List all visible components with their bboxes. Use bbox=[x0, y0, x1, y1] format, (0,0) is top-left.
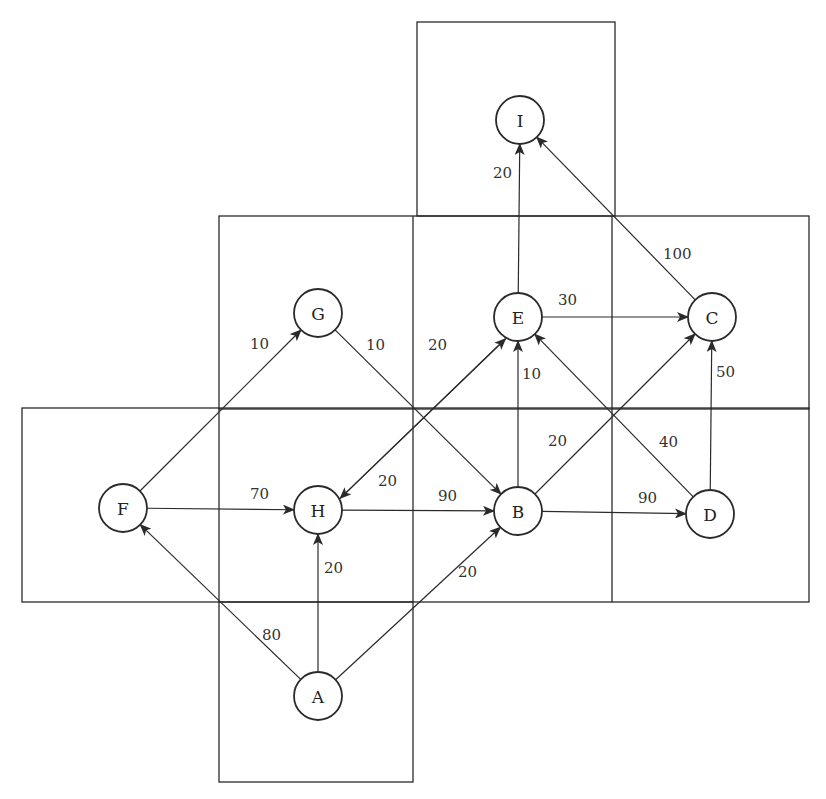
edge-B-to-D bbox=[542, 511, 686, 513]
edge-weight-H-E: 20 bbox=[378, 472, 397, 490]
node-label: C bbox=[705, 308, 718, 328]
edge-F-to-G bbox=[140, 330, 301, 491]
node-E: E bbox=[494, 293, 542, 341]
edge-weight-E-C: 30 bbox=[558, 291, 577, 309]
edge-weight-C-I: 100 bbox=[663, 245, 692, 263]
node-F: F bbox=[99, 484, 147, 532]
edge-weight-D-C: 50 bbox=[716, 363, 735, 381]
node-label: G bbox=[311, 304, 325, 324]
node-label: F bbox=[117, 499, 129, 519]
node-label: B bbox=[512, 502, 525, 522]
edge-D-to-E bbox=[535, 334, 693, 497]
edge-weight-A-F: 80 bbox=[262, 626, 281, 644]
edge-weight-E-I: 20 bbox=[493, 164, 512, 182]
edge-H-to-B bbox=[342, 510, 494, 511]
edge-weight-F-H: 70 bbox=[250, 485, 269, 503]
edge-C-to-I bbox=[537, 137, 695, 300]
edge-weight-B-E: 10 bbox=[522, 365, 541, 383]
edge-weight-B-C: 20 bbox=[548, 432, 567, 450]
edge-B-to-C bbox=[535, 334, 695, 494]
node-B: B bbox=[494, 487, 542, 535]
edge-weight-G-B: 10 bbox=[366, 336, 385, 354]
node-label: I bbox=[517, 111, 524, 131]
node-A: A bbox=[294, 672, 342, 720]
edge-weight-D-E: 40 bbox=[659, 433, 678, 451]
node-I: I bbox=[496, 96, 544, 144]
edge-weight-A-H: 20 bbox=[324, 559, 343, 577]
edge-weight-E-H: 20 bbox=[428, 336, 447, 354]
edge-F-to-H bbox=[147, 508, 294, 510]
graph-diagram: 20100101030202010502040709090202080 IGEC… bbox=[0, 0, 826, 799]
region-boxes bbox=[22, 22, 809, 782]
node-label: A bbox=[311, 687, 325, 707]
edge-weight-B-D: 90 bbox=[638, 489, 657, 507]
node-D: D bbox=[686, 490, 734, 538]
node-H: H bbox=[294, 486, 342, 534]
edge-E-to-I bbox=[518, 144, 520, 293]
node-label: H bbox=[311, 501, 326, 521]
edge-weight-H-B: 90 bbox=[438, 487, 457, 505]
edge-weight-F-G: 10 bbox=[250, 335, 269, 353]
node-label: E bbox=[512, 308, 524, 328]
node-label: D bbox=[703, 505, 717, 525]
edge-D-to-C bbox=[710, 341, 712, 490]
edge-weight-A-B: 20 bbox=[458, 563, 477, 581]
edge-A-to-B bbox=[336, 527, 501, 679]
edge-G-to-B bbox=[335, 330, 501, 494]
node-G: G bbox=[294, 289, 342, 337]
edge-weight-labels: 20100101030202010502040709090202080 bbox=[250, 164, 735, 644]
node-C: C bbox=[688, 293, 736, 341]
